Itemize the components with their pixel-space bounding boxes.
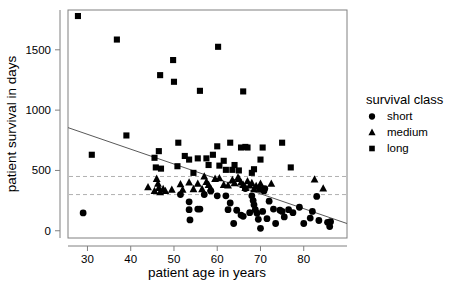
point-marker-circle — [307, 215, 314, 222]
point-marker-circle — [80, 210, 87, 217]
point-marker-circle — [327, 218, 334, 225]
y-axis-title: patient survival in days — [4, 55, 19, 192]
point-marker-circle — [194, 206, 201, 213]
point-marker-square — [231, 162, 237, 168]
point-marker-square — [123, 132, 129, 138]
point-marker-square — [227, 140, 233, 146]
point-marker-square — [190, 170, 196, 176]
point-marker-circle — [255, 216, 262, 223]
point-marker-square — [151, 155, 157, 161]
point-marker-circle — [300, 220, 307, 227]
point-marker-circle — [264, 215, 271, 222]
point-marker-square — [170, 57, 176, 63]
point-marker-circle — [266, 198, 273, 205]
point-marker-square — [221, 158, 227, 164]
point-marker-square — [244, 144, 250, 150]
point-marker-square — [158, 166, 164, 172]
point-marker-circle — [290, 209, 297, 216]
point-marker-circle — [240, 213, 247, 220]
point-marker-square — [157, 72, 163, 78]
point-marker-square — [279, 140, 285, 146]
y-tick-label: 1500 — [25, 44, 51, 56]
point-marker-square — [223, 167, 229, 173]
point-marker-square — [257, 157, 263, 163]
chart-canvas: 050010001500 304050607080 patient age in… — [0, 0, 466, 288]
point-marker-circle — [315, 217, 322, 224]
y-tick-label: 0 — [45, 225, 51, 237]
point-marker-square — [369, 146, 375, 152]
y-tick-label: 1000 — [25, 104, 51, 116]
point-marker-square — [288, 164, 294, 170]
point-marker-square — [214, 143, 220, 149]
point-marker-square — [206, 162, 212, 168]
point-marker-square — [195, 155, 201, 161]
point-marker-square — [240, 88, 246, 94]
point-marker-circle — [259, 208, 266, 215]
point-marker-circle — [227, 200, 234, 207]
point-marker-circle — [369, 113, 375, 119]
point-marker-circle — [270, 206, 277, 213]
legend-entry-label: medium — [387, 126, 428, 138]
point-marker-circle — [186, 206, 193, 213]
point-marker-circle — [281, 213, 288, 220]
point-marker-circle — [214, 192, 221, 199]
point-marker-square — [210, 152, 216, 158]
legend-entry-label: short — [387, 110, 413, 122]
point-marker-square — [251, 166, 257, 172]
point-marker-square — [260, 144, 266, 150]
point-marker-circle — [201, 191, 208, 198]
point-marker-circle — [313, 193, 320, 200]
point-marker-square — [203, 155, 209, 161]
point-marker-square — [153, 164, 159, 170]
x-tick-label: 30 — [81, 253, 94, 265]
point-marker-circle — [272, 220, 279, 227]
point-marker-square — [89, 152, 95, 158]
point-marker-square — [156, 148, 162, 154]
point-marker-square — [171, 79, 177, 85]
scatter-plot-figure: 050010001500 304050607080 patient age in… — [0, 0, 466, 288]
x-axis-title: patient age in years — [148, 265, 266, 280]
y-tick-label: 500 — [32, 164, 51, 176]
point-marker-square — [114, 37, 120, 43]
x-tick-label: 80 — [297, 253, 310, 265]
point-marker-square — [186, 157, 192, 163]
legend-title: survival class — [366, 92, 444, 107]
point-marker-square — [236, 167, 242, 173]
x-tick-label: 50 — [168, 253, 181, 265]
point-marker-circle — [309, 208, 316, 215]
x-tick-label: 60 — [211, 253, 224, 265]
point-marker-circle — [225, 206, 232, 213]
point-marker-square — [197, 88, 203, 94]
point-marker-circle — [230, 220, 237, 227]
legend-entry-label: long — [387, 142, 409, 154]
point-marker-square — [174, 163, 180, 169]
point-marker-square — [75, 13, 81, 19]
x-tick-label: 40 — [124, 253, 137, 265]
x-tick-label: 70 — [254, 253, 267, 265]
point-marker-square — [175, 140, 181, 146]
point-marker-circle — [222, 192, 229, 199]
point-marker-square — [215, 44, 221, 50]
point-marker-circle — [186, 198, 193, 205]
point-marker-circle — [257, 225, 264, 232]
point-marker-circle — [296, 204, 303, 211]
point-marker-circle — [187, 217, 194, 224]
